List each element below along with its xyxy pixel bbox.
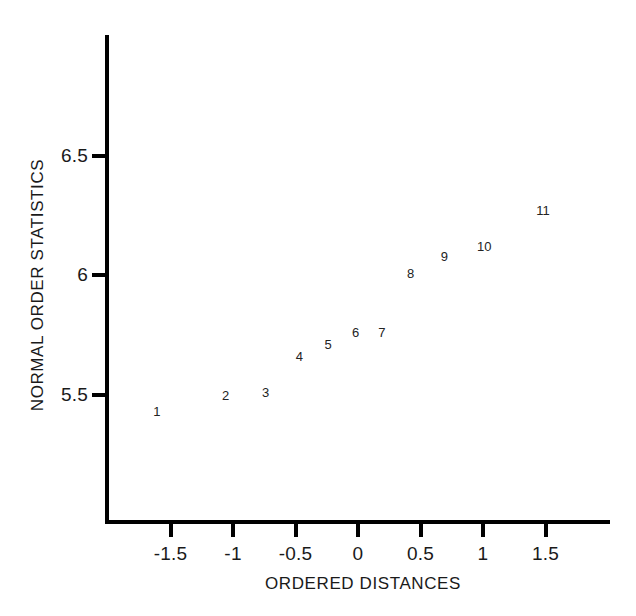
- y-tick-6.5: [92, 154, 105, 158]
- x-tick-label: -1: [224, 543, 241, 565]
- data-point-11: 11: [536, 204, 550, 217]
- x-tick-1.5: [544, 524, 548, 537]
- x-tick--0.5: [294, 524, 298, 537]
- x-tick--1.5: [169, 524, 173, 537]
- x-axis-title-container: ORDERED DISTANCES: [0, 574, 636, 594]
- x-tick-label: 1.5: [532, 543, 559, 565]
- data-point-3: 3: [262, 386, 269, 399]
- x-tick--1: [231, 524, 235, 537]
- data-point-9: 9: [441, 249, 448, 262]
- x-tick-label: -1.5: [154, 543, 188, 565]
- y-axis-title: NORMAL ORDER STATISTICS: [28, 159, 48, 411]
- y-tick-label: 6: [77, 264, 88, 285]
- x-tick-label: 0: [353, 543, 364, 565]
- y-tick-label: 6.5: [61, 145, 88, 166]
- data-point-10: 10: [477, 240, 491, 253]
- x-tick-0.5: [419, 524, 423, 537]
- x-tick-1: [481, 524, 485, 537]
- data-point-1: 1: [153, 405, 160, 418]
- y-tick-6: [92, 273, 105, 277]
- y-tick-5.5: [92, 393, 105, 397]
- data-point-6: 6: [352, 326, 359, 339]
- x-tick-label: 1: [478, 543, 489, 565]
- y-axis-line: [105, 35, 109, 524]
- x-tick-0: [356, 524, 360, 537]
- data-point-8: 8: [407, 266, 414, 279]
- x-tick-label: 0.5: [407, 543, 434, 565]
- data-point-4: 4: [296, 350, 303, 363]
- data-point-7: 7: [378, 326, 385, 339]
- data-point-5: 5: [324, 338, 331, 351]
- x-axis-title: ORDERED DISTANCES: [265, 574, 461, 594]
- data-point-2: 2: [222, 388, 229, 401]
- x-tick-label: -0.5: [279, 543, 313, 565]
- y-tick-label: 5.5: [61, 384, 88, 405]
- normal-probability-plot: 5.566.5 -1.5-1-0.500.511.5 1234567891011…: [0, 0, 636, 616]
